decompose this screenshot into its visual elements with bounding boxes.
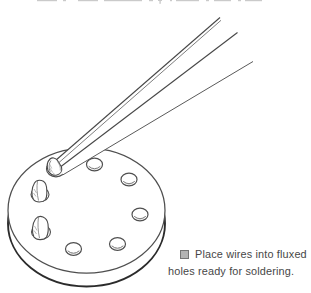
caption: Place wires into fluxed holes ready for … <box>168 246 311 280</box>
disc-hole <box>87 158 103 171</box>
disc-hole <box>132 208 148 221</box>
disc-hole <box>66 243 82 256</box>
caption-line2: holes ready for soldering. <box>168 263 311 280</box>
illustration-page: Place wires into fluxed holes ready for … <box>0 0 311 293</box>
square-bullet-icon <box>180 250 189 259</box>
disc-hole <box>110 238 126 251</box>
wire-top <box>56 18 238 168</box>
caption-line1: Place wires into fluxed <box>168 246 311 263</box>
wire-bottom <box>60 33 253 175</box>
wire-pair <box>47 18 253 176</box>
disc-hole <box>121 173 137 186</box>
cropped-text-artifact <box>37 0 262 4</box>
caption-text-line1: Place wires into fluxed <box>195 246 307 263</box>
